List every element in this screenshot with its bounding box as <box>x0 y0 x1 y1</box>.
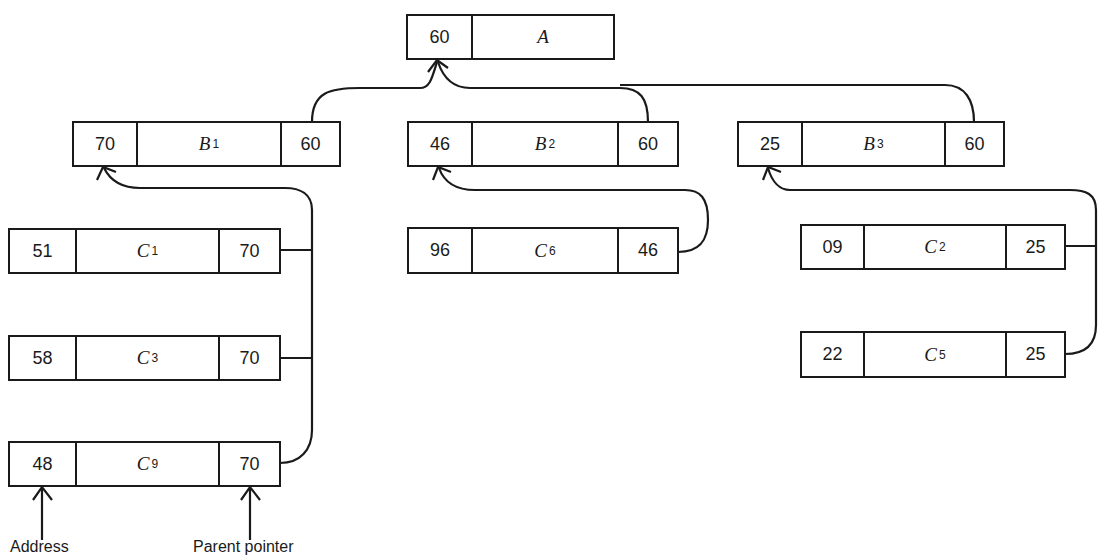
parent-pointer-cell: 70 <box>218 443 279 485</box>
name-cell: C6 <box>471 229 617 272</box>
name-cell: B2 <box>471 123 617 165</box>
record-a: 60 A <box>406 14 615 60</box>
parent-pointer-cell: 60 <box>280 123 339 165</box>
address-cell: 46 <box>409 123 471 165</box>
parent-pointer-cell: 46 <box>617 229 677 272</box>
record-b1: 70 B1 60 <box>72 121 341 167</box>
parent-pointer-cell: 70 <box>218 230 279 272</box>
address-cell: 70 <box>74 123 136 165</box>
address-cell: 25 <box>739 123 801 165</box>
parent-pointer-cell: 25 <box>1005 333 1064 376</box>
address-arrow <box>33 487 52 540</box>
parent-pointer-cell: 25 <box>1005 226 1064 268</box>
address-label: Address <box>10 538 69 556</box>
record-b2: 46 B2 60 <box>407 121 679 167</box>
record-c1: 51 C1 70 <box>8 228 281 274</box>
name-cell: C2 <box>863 226 1005 268</box>
name-cell: B1 <box>136 123 280 165</box>
record-c3: 58 C3 70 <box>8 335 281 381</box>
name-cell: C1 <box>75 230 218 272</box>
parent-pointer-arrow <box>241 487 260 540</box>
record-c5: 22 C5 25 <box>800 331 1066 378</box>
parent-pointer-label: Parent pointer <box>193 538 294 556</box>
name-cell: C3 <box>75 337 218 379</box>
address-cell: 96 <box>409 229 471 272</box>
name-cell: A <box>471 16 613 58</box>
parent-pointer-cell: 60 <box>617 123 677 165</box>
link-c-to-b1 <box>104 168 312 463</box>
link-b3-to-a <box>620 85 974 122</box>
address-cell: 22 <box>802 333 863 376</box>
link-b2-to-a <box>438 62 648 122</box>
record-b3: 25 B3 60 <box>737 121 1005 167</box>
name-cell: B3 <box>801 123 944 165</box>
parent-pointer-cell: 70 <box>218 337 279 379</box>
name-cell: C5 <box>863 333 1005 376</box>
parent-pointer-cell: 60 <box>944 123 1003 165</box>
address-cell: 58 <box>10 337 75 379</box>
address-cell: 09 <box>802 226 863 268</box>
arrowhead-a <box>428 60 448 72</box>
address-cell: 51 <box>10 230 75 272</box>
link-b1-to-a <box>312 62 437 122</box>
record-c9: 48 C9 70 <box>8 441 281 487</box>
record-c6: 96 C6 46 <box>407 227 679 274</box>
name-cell: C9 <box>75 443 218 485</box>
address-cell: 60 <box>408 16 471 58</box>
record-c2: 09 C2 25 <box>800 224 1066 270</box>
address-cell: 48 <box>10 443 75 485</box>
